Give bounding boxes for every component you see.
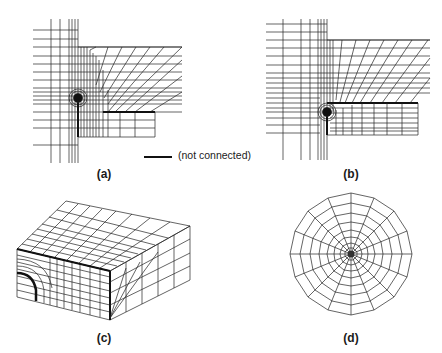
legend-text: (not connected) [178,149,251,161]
panel-label-d: (d) [343,331,358,345]
legend-thick-line [144,156,172,158]
mesh-panel-c [17,201,190,320]
mesh-panel-b [266,19,430,160]
mesh-panel-a [33,19,182,163]
panel-label-b: (b) [343,167,358,181]
figure-canvas [0,0,442,353]
panel-label-a: (a) [97,167,112,181]
mesh-panel-d [290,193,412,315]
panel-label-c: (c) [97,331,112,345]
